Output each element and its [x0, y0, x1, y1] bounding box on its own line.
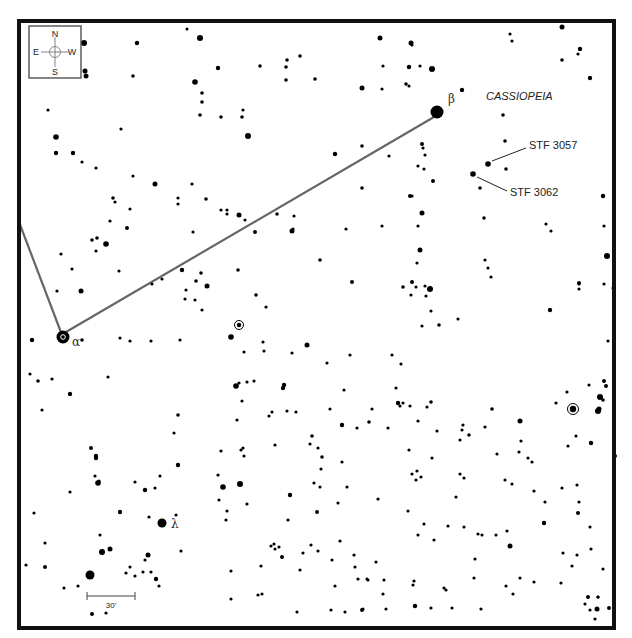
star-icon	[338, 539, 341, 542]
star-icon	[286, 518, 289, 521]
star-icon	[294, 410, 297, 413]
star-icon	[285, 409, 288, 412]
star-icon	[240, 399, 243, 402]
star-icon	[153, 182, 158, 187]
star-icon	[532, 580, 535, 583]
star-icon	[205, 284, 210, 289]
star-icon	[419, 475, 422, 478]
star-icon	[601, 567, 604, 570]
star-icon	[254, 293, 258, 297]
star-icon	[401, 401, 404, 404]
star-icon	[473, 557, 476, 560]
star-icon	[157, 584, 160, 587]
star-icon	[217, 498, 220, 501]
star-icon	[382, 578, 385, 581]
star-icon	[98, 533, 101, 536]
star-icon	[50, 377, 53, 380]
star-icon	[259, 564, 262, 567]
star-icon	[575, 483, 578, 486]
star-icon	[316, 446, 319, 449]
star-icon	[460, 88, 464, 92]
star-icon	[415, 469, 418, 472]
star-icon	[589, 441, 593, 445]
star-icon	[219, 115, 223, 119]
star-icon	[183, 297, 186, 300]
star-icon	[381, 592, 384, 595]
star-icon	[587, 383, 590, 386]
star-icon	[420, 211, 425, 216]
star-icon	[467, 433, 471, 437]
star-icon	[275, 212, 279, 216]
star-icon	[544, 222, 547, 225]
star-icon	[542, 521, 546, 525]
star-icon	[43, 541, 46, 544]
star-icon	[128, 207, 131, 210]
star-icon	[399, 362, 402, 365]
star-icon	[288, 493, 292, 497]
star-icon	[602, 282, 605, 285]
star-icon	[480, 533, 483, 536]
star-icon	[241, 108, 244, 111]
star-icon	[292, 214, 295, 217]
star-icon	[197, 35, 203, 41]
star-icon	[62, 586, 65, 589]
star-icon	[548, 308, 552, 312]
star-icon	[336, 501, 339, 504]
star-alpha-label: α	[72, 335, 80, 349]
star-icon	[200, 308, 203, 311]
star-icon	[508, 32, 511, 35]
star-icon	[390, 353, 393, 356]
star-icon	[284, 78, 288, 82]
double-star-label: STF 3057	[529, 139, 577, 151]
star-icon	[310, 434, 314, 438]
star-icon	[90, 612, 94, 616]
star-icon	[225, 212, 228, 215]
star-icon	[40, 408, 43, 411]
star-icon	[374, 560, 377, 563]
star-icon	[519, 439, 522, 442]
star-icon	[489, 275, 492, 278]
star-icon	[543, 500, 546, 503]
star-icon	[95, 480, 101, 486]
star-icon	[504, 167, 508, 171]
star-icon	[328, 407, 331, 410]
star-icon	[596, 595, 599, 598]
star-icon	[54, 151, 58, 155]
star-icon	[59, 252, 62, 255]
star-icon	[111, 196, 115, 200]
star-icon	[560, 25, 565, 30]
star-icon	[510, 39, 513, 42]
star-icon	[131, 74, 135, 78]
star-icon	[90, 238, 94, 242]
star-icon	[108, 219, 111, 222]
star-icon	[309, 543, 312, 546]
star-icon	[262, 349, 265, 352]
star-icon	[319, 467, 322, 470]
star-icon	[241, 446, 244, 449]
star-icon	[560, 58, 564, 62]
star-icon	[179, 549, 182, 552]
star-chart: αβλSTF 3057STF 3062 CASSIOPEIA N S E W 3…	[0, 0, 632, 638]
star-icon	[103, 241, 109, 247]
star-icon	[261, 340, 264, 343]
star-icon	[150, 282, 153, 285]
star-icon	[252, 379, 255, 382]
star-icon	[245, 133, 251, 139]
star-icon	[462, 476, 465, 479]
star-icon	[141, 570, 144, 573]
star-icon	[530, 460, 533, 463]
star-icon	[454, 495, 457, 498]
star-icon	[494, 533, 497, 536]
star-icon	[282, 383, 286, 387]
star-icon	[84, 74, 89, 79]
compass-rose: N S E W	[29, 26, 81, 78]
star-icon	[404, 82, 408, 86]
star-icon	[264, 305, 267, 308]
star-icon	[422, 167, 425, 170]
star-icon	[128, 339, 131, 342]
star-icon	[191, 230, 194, 233]
double-star-label: STF 3062	[510, 186, 558, 198]
star-icon	[606, 339, 609, 342]
star-icon	[242, 350, 245, 353]
variable-star-core	[570, 406, 576, 412]
